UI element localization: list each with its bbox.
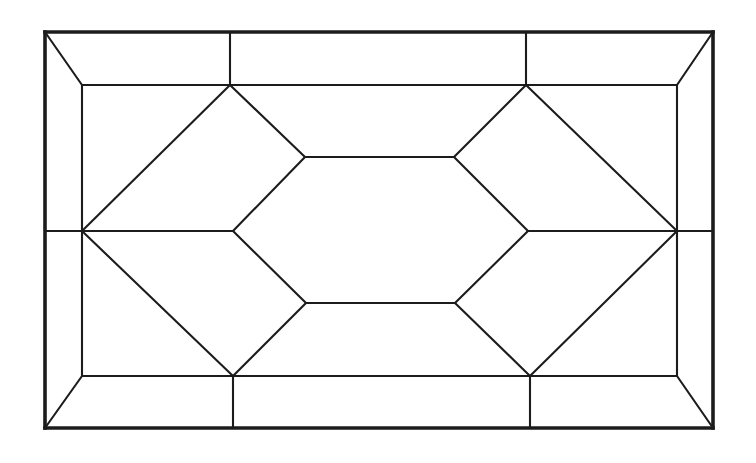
edge-outer_top_left--inner_top_left [45, 32, 82, 85]
edge-outer_top_right--inner_top_right [677, 32, 713, 85]
edge-inner_bottom_t2--inner_right_mid [530, 231, 677, 376]
edge-inner_top_t2--hex_top_right [454, 85, 526, 157]
edge-inner_top_t1--hex_top_left [230, 85, 305, 157]
figure-canvas [0, 0, 756, 463]
edge-inner_bottom_t2--hex_bottom_right [455, 303, 530, 376]
edge-inner_bottom_t1--inner_left_mid [82, 231, 233, 376]
edge-hex_left--hex_top_left [233, 157, 305, 231]
page: { "diagram": { "description": "nested-fr… [0, 0, 756, 463]
edge-inner_top_t2--inner_right_mid [526, 85, 677, 231]
edge-hex_bottom_left--hex_left [233, 231, 306, 303]
edge-inner_bottom_t1--hex_bottom_left [233, 303, 306, 376]
edge-inner_top_t1--inner_left_mid [82, 85, 230, 231]
edge-hex_right--hex_bottom_right [455, 231, 528, 303]
edge-outer_bottom_left--inner_bottom_left [45, 376, 82, 428]
edge-hex_top_right--hex_right [454, 157, 528, 231]
frame-line-art [0, 0, 756, 463]
edge-outer_bottom_right--inner_bottom_right [677, 376, 713, 428]
